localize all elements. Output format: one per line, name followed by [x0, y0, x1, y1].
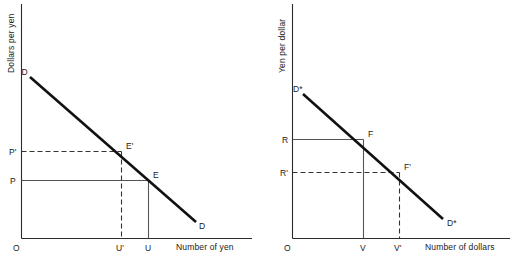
right-equilibrium-label-f: F	[368, 129, 373, 139]
chart-panel-market-for-yen: Dollars per yen Number of yen O D D P' P…	[0, 0, 258, 260]
left-price-label-p: P	[10, 176, 16, 186]
right-panel-svg: Yen per dollar Number of dollars O D* D*…	[258, 0, 516, 260]
right-curve-label-end-dstar: D*	[447, 218, 457, 228]
left-equilibrium-label-e-prime: E'	[126, 141, 134, 151]
right-quantity-label-v: V	[360, 243, 366, 253]
left-quantity-label-u-prime: U'	[116, 243, 124, 253]
right-price-label-r: R	[282, 135, 288, 145]
right-y-axis-label: Yen per dollar	[277, 19, 287, 73]
figure-root: Dollars per yen Number of yen O D D P' P…	[0, 0, 516, 260]
left-x-axis-label: Number of yen	[176, 242, 234, 252]
left-demand-curve-d	[30, 77, 196, 222]
right-origin-label: O	[284, 243, 291, 253]
left-curve-label-start-d: D	[22, 67, 28, 77]
left-equilibrium-label-e: E	[153, 170, 159, 180]
left-origin-label: O	[13, 243, 20, 253]
left-quantity-label-u: U	[145, 243, 151, 253]
left-y-axis-label: Dollars per yen	[6, 13, 16, 73]
right-x-axis-label: Number of dollars	[425, 242, 495, 252]
right-price-label-r-prime: R'	[280, 168, 288, 178]
left-price-label-p-prime: P'	[9, 147, 17, 157]
right-demand-curve-dstar	[303, 94, 443, 219]
chart-panel-market-for-dollars: Yen per dollar Number of dollars O D* D*…	[258, 0, 516, 260]
left-panel-svg: Dollars per yen Number of yen O D D P' P…	[0, 0, 258, 260]
right-quantity-label-v-prime: V'	[394, 243, 402, 253]
left-curve-label-end-d: D	[199, 221, 205, 231]
right-equilibrium-label-f-prime: F'	[404, 162, 411, 172]
right-curve-label-start-dstar: D*	[293, 84, 303, 94]
